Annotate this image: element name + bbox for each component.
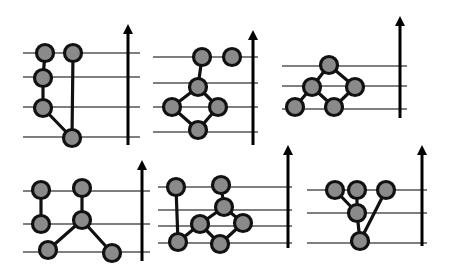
graph-node [190,122,207,139]
graph-node [212,236,229,253]
panel-5 [158,145,293,253]
arrow-up-icon [137,160,147,170]
graph-node [192,216,209,233]
graph-node [304,79,321,96]
graph-node [352,233,369,250]
panel-4 [23,160,150,262]
graph-node [235,215,252,232]
graph-node [33,216,50,233]
graph-node [349,182,366,199]
arrow-up-icon [248,30,258,40]
graph-node [64,130,81,147]
panel-2 [153,30,258,145]
graph-node [190,79,207,96]
panel-3 [282,16,407,118]
arrow-up-icon [123,24,133,34]
graph-node [37,45,54,62]
graph-node [224,49,241,66]
graph-node [213,177,230,194]
graph-node [287,99,304,116]
panel-6 [307,145,427,250]
arrow-up-icon [283,145,293,155]
graph-node [194,49,211,66]
graph-node [104,245,121,262]
graph-node [35,70,52,87]
graph-node [40,242,57,259]
graph-node [347,79,364,96]
graph-node [321,57,338,74]
graph-node [74,212,91,229]
graph-node [210,99,227,116]
graph-node [327,182,344,199]
diagram-canvas [0,0,450,275]
graph-node [33,182,50,199]
graph-node [35,100,52,117]
graph-node [326,99,343,116]
graph-node [168,179,185,196]
graph-level-diagrams [0,0,450,275]
graph-node [65,45,82,62]
graph-node [170,234,187,251]
graph-edge [72,53,73,138]
graph-node [378,182,395,199]
graph-node [164,99,181,116]
panel-1 [23,24,140,147]
graph-node [216,199,233,216]
arrow-up-icon [417,145,427,155]
graph-node [74,180,91,197]
graph-node [349,205,366,222]
arrow-up-icon [395,16,405,26]
